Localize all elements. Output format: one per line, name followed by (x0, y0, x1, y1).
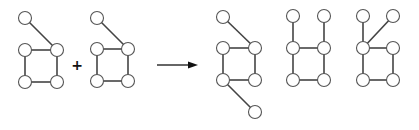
graph-node (287, 10, 300, 23)
graph-node (122, 75, 135, 88)
graph-node (19, 44, 32, 57)
graph-node (19, 12, 32, 25)
graph-node (19, 76, 32, 89)
graph-operation-diagram: + (0, 0, 419, 130)
graph-node (91, 75, 104, 88)
graph-node (217, 74, 230, 87)
result-graph-2 (287, 10, 331, 87)
result-graph-3 (357, 10, 400, 87)
right-arrow-icon (157, 62, 198, 69)
graph-node (387, 42, 400, 55)
graph-node (91, 43, 104, 56)
graph-node (91, 12, 104, 25)
graph-node (357, 42, 370, 55)
graph-node (357, 74, 370, 87)
input-graph-1 (19, 12, 64, 89)
graph-node (122, 43, 135, 56)
graph-node (287, 42, 300, 55)
graph-node (357, 10, 370, 23)
graph-node (318, 10, 331, 23)
graph-node (387, 10, 400, 23)
graph-node (217, 11, 230, 24)
graph-node (249, 74, 262, 87)
plus-operator: + (71, 57, 83, 73)
graph-node (318, 42, 331, 55)
input-graph-2 (91, 12, 135, 88)
graph-node (387, 74, 400, 87)
graph-node (318, 74, 331, 87)
graph-node (217, 42, 230, 55)
arrow-head (188, 62, 198, 69)
graph-node (287, 74, 300, 87)
graph-node (249, 42, 262, 55)
graph-node (51, 76, 64, 89)
graph-node (249, 106, 262, 119)
result-graph-1 (217, 11, 262, 119)
graph-node (51, 44, 64, 57)
